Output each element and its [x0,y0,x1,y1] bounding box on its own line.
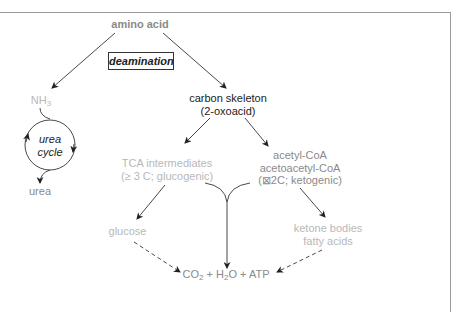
node-ketone-bodies: ketone bodies fatty acids [288,222,368,247]
node-glucose: glucose [100,225,155,238]
merge-right [227,183,250,202]
nh3-to-cycle [40,108,50,119]
node-carbon-skeleton: carbon skeleton (2-oxoacid) [178,92,278,117]
node-nh3: NH3 [26,94,56,107]
dashed-glucose-to-products [134,242,180,272]
node-urea: urea [25,185,55,198]
node-products: CO2 + H2O + ATP [176,268,276,281]
node-urea-cycle: urea cycle [30,133,70,158]
arrow-to-ketone [300,188,325,217]
dashed-ketone-to-products [277,250,322,272]
arrow-to-urea [40,170,50,183]
arrow-to-acetyl [245,118,268,146]
arrow-to-tca [185,118,210,143]
node-tca-intermediates: TCA intermediates (≥ 3 C; glucogenic) [112,157,222,182]
merge-left [205,183,227,202]
node-deamination: deamination [108,52,174,70]
node-amino-acid: amino acid [100,18,180,31]
node-acetyl-coa: acetyl-CoA acetoacetyl-CoA (⊠2C; ketogen… [250,149,350,187]
arrow-to-glucose [137,185,165,219]
arrow-to-nh3 [52,33,115,88]
